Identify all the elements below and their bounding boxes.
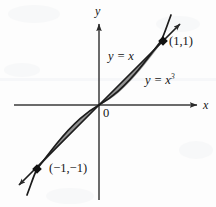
figure-canvas: y = x y = x3 (1,1) (−1,−1) 0 x y	[0, 0, 216, 207]
curve-label-line: y = x	[108, 50, 134, 63]
point-label-positive: (1,1)	[169, 35, 193, 48]
curve-label-cubic-exponent: 3	[171, 72, 175, 81]
point-label-negative: (−1,−1)	[49, 162, 87, 175]
graph-svg	[0, 0, 216, 207]
curve-line	[99, 24, 180, 105]
curve-label-cubic: y = x3	[145, 74, 175, 87]
x-axis-label: x	[203, 99, 208, 111]
curve-label-cubic-base: y = x	[145, 73, 171, 87]
origin-label: 0	[103, 107, 109, 120]
y-axis-label: y	[95, 5, 100, 17]
